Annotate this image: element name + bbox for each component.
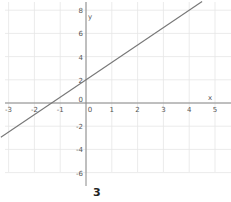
x-tick-label: 2 xyxy=(135,106,139,114)
x-tick-label: 4 xyxy=(187,106,192,114)
x-tick-label: 1 xyxy=(110,106,114,114)
y-tick-label: -4 xyxy=(76,146,84,154)
y-tick-label: 0 xyxy=(79,96,83,104)
line-series xyxy=(1,2,202,138)
grid-lines xyxy=(5,2,231,173)
figure-caption: 3 xyxy=(93,186,101,199)
x-axis-label: x xyxy=(208,94,212,102)
y-tick-label: 8 xyxy=(79,7,83,15)
y-axis-label: y xyxy=(88,13,92,21)
tick-labels: -3-2-101234586420-2-4-6 xyxy=(5,7,217,177)
coordinate-plane: -3-2-101234586420-2-4-6 x y xyxy=(0,0,231,202)
axes xyxy=(5,2,231,186)
x-tick-label: 5 xyxy=(213,106,217,114)
y-tick-label: 4 xyxy=(79,54,84,62)
y-tick-label: 6 xyxy=(79,30,84,38)
y-tick-label: -6 xyxy=(76,170,84,178)
data-line xyxy=(1,2,202,138)
x-tick-label: 0 xyxy=(88,106,92,114)
x-tick-label: 3 xyxy=(161,106,165,114)
y-tick-label: -2 xyxy=(76,123,83,131)
x-tick-label: -3 xyxy=(5,106,12,114)
x-tick-label: -1 xyxy=(57,106,64,114)
